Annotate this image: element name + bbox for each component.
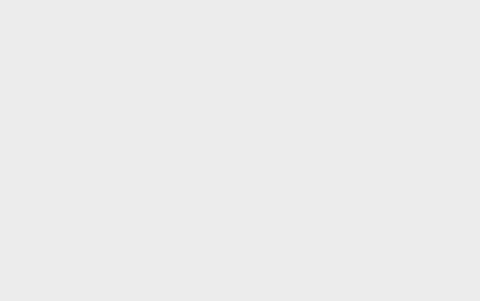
figure [31, 18, 214, 130]
chart-region [31, 18, 214, 130]
production-chart [0, 0, 480, 301]
figure-box [31, 18, 213, 129]
figure-outline [31, 18, 214, 130]
outer-panel [31, 18, 214, 130]
frame-border [31, 18, 214, 130]
panel-frame [31, 18, 214, 130]
the-panel [31, 18, 214, 130]
chart-white-background [31, 18, 214, 130]
chart-panel [30, 17, 213, 129]
visible-frame [31, 18, 214, 130]
real-panel [31, 18, 214, 130]
card [31, 18, 214, 130]
chart-outline [31, 18, 214, 130]
chart-box [31, 18, 214, 130]
panel [31, 18, 214, 130]
figure-white-box [31, 18, 214, 130]
figure-container [31, 18, 214, 130]
white-box [31, 18, 214, 130]
figure-border [31, 18, 213, 129]
plot-area-frame [31, 18, 214, 130]
chart-background [31, 18, 213, 129]
chart-card [31, 18, 214, 130]
box [31, 18, 214, 130]
panel-rect [31, 18, 213, 129]
white-panel [31, 18, 213, 129]
figure-panel [31, 18, 214, 130]
main-panel [31, 18, 214, 130]
chart-frame [31, 18, 214, 130]
figure-area [31, 18, 214, 130]
